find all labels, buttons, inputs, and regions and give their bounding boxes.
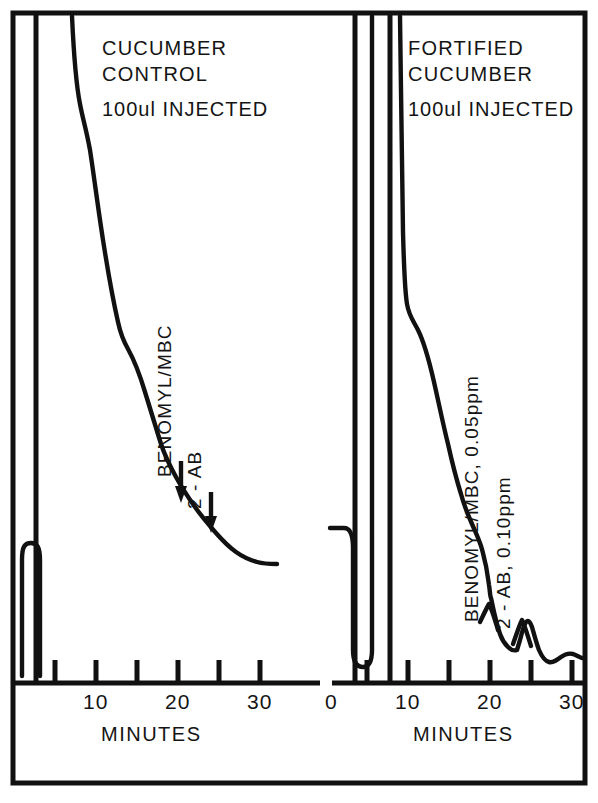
left-axis-label: MINUTES bbox=[101, 723, 202, 746]
left-annotation-benomyl: BENOMYL/MBC bbox=[154, 324, 176, 477]
left-tick-label-20: 20 bbox=[165, 690, 190, 714]
trace-fortified-injection bbox=[330, 16, 372, 667]
figure-border bbox=[13, 13, 585, 783]
right-axis-label: MINUTES bbox=[413, 723, 514, 746]
left-panel-injection: 100ul INJECTED bbox=[102, 98, 268, 121]
right-panel-injection: 100ul INJECTED bbox=[408, 98, 574, 121]
left-panel-title-line2: CONTROL bbox=[102, 62, 208, 87]
right-annotation-benomyl: BENOMYL/MBC, 0.05ppm bbox=[461, 375, 483, 622]
right-tick-label-20: 20 bbox=[477, 690, 502, 714]
right-annotation-2ab: 2 - AB, 0.10ppm bbox=[493, 476, 515, 629]
right-tick-label-10: 10 bbox=[395, 690, 420, 714]
right-panel-ticks bbox=[367, 660, 572, 683]
arrow-2ab-left bbox=[205, 492, 217, 533]
left-tick-label-10: 10 bbox=[83, 690, 108, 714]
left-annotation-2ab: 2 - AB bbox=[184, 451, 206, 509]
right-tick-label-30: 30 bbox=[559, 690, 584, 714]
left-tick-label-30: 30 bbox=[247, 690, 272, 714]
right-tick-label-0: 0 bbox=[325, 690, 338, 714]
right-panel-title-line1: FORTIFIED bbox=[408, 36, 524, 61]
left-panel-title-line1: CUCUMBER bbox=[102, 36, 227, 61]
left-panel-ticks bbox=[55, 660, 260, 683]
right-panel-title-line2: CUCUMBER bbox=[408, 62, 533, 87]
